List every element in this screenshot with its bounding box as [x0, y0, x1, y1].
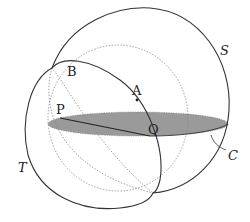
- sphere-s: [52, 8, 229, 193]
- label-s: S: [220, 43, 229, 58]
- label-p: P: [56, 102, 65, 117]
- label-t: T: [18, 160, 28, 175]
- label-b: B: [67, 64, 77, 79]
- point-a: [136, 99, 139, 102]
- label-q: Q: [148, 122, 159, 137]
- label-a: A: [131, 83, 142, 98]
- label-c: C: [228, 148, 238, 163]
- sphere-diagram: S T C A B P Q: [0, 0, 250, 222]
